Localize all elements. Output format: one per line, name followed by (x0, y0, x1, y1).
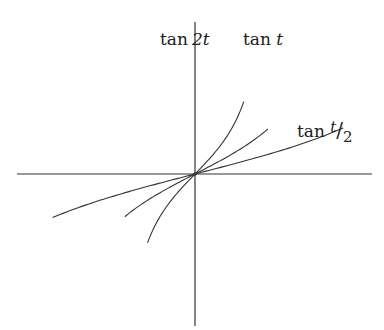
label-func: tan (160, 29, 188, 49)
label-tan-half-t: tan t/2 (297, 120, 353, 140)
label-tan-2t: tan2t (160, 31, 210, 48)
tangent-plot (0, 0, 384, 330)
label-func: tan (243, 29, 271, 49)
curve-tan-half-t (53, 128, 344, 218)
label-func: tan (297, 121, 325, 141)
label-tan-t: tan t (243, 31, 283, 48)
curve-tan-2t (148, 102, 244, 243)
label-frac-den: 2 (343, 128, 353, 146)
label-arg: t (276, 29, 283, 49)
label-arg: 2t (192, 29, 210, 49)
origin-point (193, 172, 197, 176)
